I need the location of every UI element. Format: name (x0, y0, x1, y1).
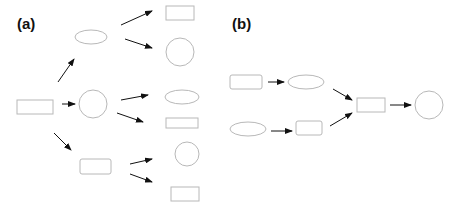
diagram-canvas: (a) (b) (0, 0, 454, 213)
a-upper-leaf-1-rectangle (166, 6, 194, 20)
b-bottom-start-ellipse (230, 122, 266, 136)
a-lower-leaf-1-circle (175, 142, 199, 166)
a-edge-middle-leaf2-arrow (117, 113, 143, 122)
b-edge-top-merge-arrow (333, 89, 352, 100)
a-edge-upper-leaf1-arrow (121, 11, 152, 25)
a-edge-lower-leaf2-arrow (130, 174, 152, 182)
a-lower-leaf-2-rectangle (171, 187, 199, 201)
a-middle-leaf-1-ellipse (165, 90, 199, 104)
b-bottom-next-rounded-rectangle (296, 121, 322, 135)
a-lower-rounded-rectangle (80, 159, 111, 174)
panel-a-label: (a) (17, 15, 35, 32)
a-edge-lower-leaf1-arrow (130, 159, 152, 164)
a-edge-root-upper-arrow (58, 59, 74, 82)
b-edge-bottom-merge-arrow (330, 113, 352, 126)
a-edge-upper-leaf2-arrow (125, 39, 152, 48)
a-middle-leaf-2-rectangle (166, 118, 198, 128)
b-top-start-rounded-rectangle (230, 75, 262, 89)
b-merge-rectangle (357, 98, 385, 112)
a-middle-circle (79, 90, 107, 118)
b-end-circle (415, 91, 443, 119)
panel-b-label: (b) (232, 15, 251, 32)
a-edge-middle-leaf1-arrow (121, 95, 148, 100)
a-upper-ellipse (75, 30, 107, 44)
a-edge-root-lower-arrow (54, 133, 71, 150)
panel-a: (a) (17, 6, 199, 201)
panel-b: (b) (230, 15, 443, 136)
b-top-next-ellipse (288, 75, 324, 89)
a-upper-leaf-2-circle (166, 38, 194, 66)
a-root-rectangle (17, 100, 53, 114)
